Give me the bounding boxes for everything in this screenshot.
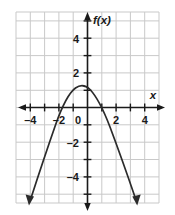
x-tick-label: –4 bbox=[24, 114, 37, 126]
x-tick-label: –2 bbox=[53, 114, 65, 126]
y-axis-bottom-arrowhead bbox=[84, 203, 90, 211]
y-tick-label: 4 bbox=[73, 33, 80, 45]
y-axis-label: f(x) bbox=[93, 14, 111, 26]
x-tick-label: 2 bbox=[113, 114, 119, 126]
x-axis-right-arrowhead bbox=[157, 104, 165, 110]
y-tick-label: –4 bbox=[67, 171, 80, 183]
graph-container: –4 –2 0 2 4 4 2 –2 –4 f(x) x bbox=[0, 0, 175, 215]
coordinate-plane-chart: –4 –2 0 2 4 4 2 –2 –4 f(x) x bbox=[0, 0, 175, 215]
x-axis-label: x bbox=[149, 89, 157, 101]
x-tick-label: 4 bbox=[142, 114, 149, 126]
y-tick-label: –2 bbox=[67, 137, 79, 149]
origin-label: 0 bbox=[75, 114, 81, 126]
y-tick-label: 2 bbox=[73, 67, 79, 79]
